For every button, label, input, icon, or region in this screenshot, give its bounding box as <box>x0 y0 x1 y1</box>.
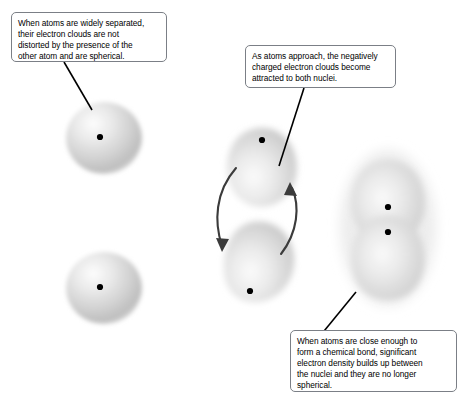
panel-bonded-atoms <box>340 150 436 306</box>
bonded-atom-bottom <box>352 216 425 300</box>
nucleus-dot <box>259 137 265 143</box>
approaching-atom-bottom <box>224 221 294 302</box>
nucleus-dot <box>247 288 253 294</box>
panel-separated-atoms <box>66 102 142 324</box>
panel-approaching-atoms <box>216 128 297 302</box>
callout-atoms-approach: As atoms approach, the negatively charge… <box>245 45 396 88</box>
leader-widely-separated <box>64 62 92 110</box>
separated-atom-top <box>66 102 142 174</box>
nucleus-dot <box>385 229 391 235</box>
figure-canvas: When atoms are widely separated, their e… <box>0 0 465 414</box>
separated-atom-bottom <box>66 252 142 324</box>
nucleus-dot <box>97 284 103 290</box>
nucleus-dot <box>385 204 391 210</box>
callout-atoms-approach-text: As atoms approach, the negatively charge… <box>252 51 389 84</box>
nucleus-dot <box>97 134 103 140</box>
callout-chemical-bond-text: When atoms are close enough to form a ch… <box>297 336 450 391</box>
callout-chemical-bond: When atoms are close enough to form a ch… <box>290 330 457 392</box>
callout-widely-separated-text: When atoms are widely separated, their e… <box>18 18 160 62</box>
callout-widely-separated: When atoms are widely separated, their e… <box>11 12 167 62</box>
